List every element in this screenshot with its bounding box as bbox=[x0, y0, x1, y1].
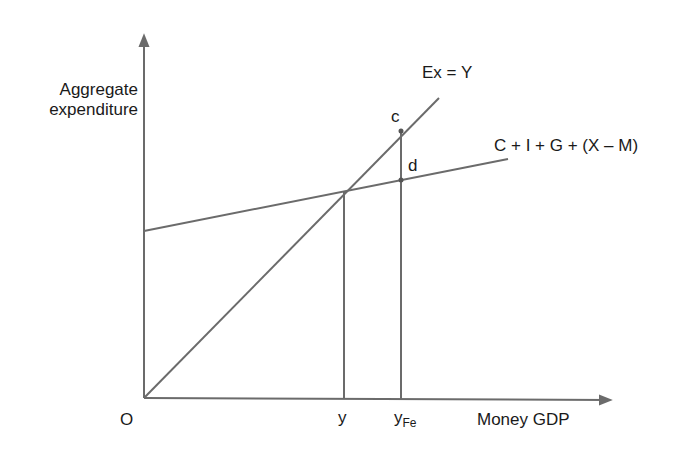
line-45-label: Ex = Y bbox=[422, 63, 472, 83]
x-tick-yfe: yFe bbox=[394, 408, 417, 433]
point-d-label: d bbox=[408, 156, 417, 176]
x-axis-label: Money GDP bbox=[477, 410, 570, 430]
y-axis-label-line2: expenditure bbox=[10, 100, 138, 120]
point-c-marker bbox=[399, 129, 404, 134]
x-tick-yfe-main: y bbox=[394, 408, 403, 427]
line-aggregate-expenditure bbox=[144, 159, 508, 231]
x-tick-y: y bbox=[338, 408, 347, 428]
origin-label: O bbox=[120, 410, 133, 430]
diagram-canvas bbox=[0, 0, 681, 453]
y-axis-label: Aggregate expenditure bbox=[10, 80, 138, 120]
point-d-marker bbox=[399, 178, 404, 183]
y-axis-label-line1: Aggregate bbox=[10, 80, 138, 100]
line-ae-label: C + I + G + (X – M) bbox=[494, 136, 638, 156]
x-tick-yfe-sub: Fe bbox=[403, 416, 417, 430]
line-45-degree bbox=[144, 98, 439, 398]
point-c-label: c bbox=[391, 107, 400, 127]
x-axis bbox=[144, 398, 610, 400]
